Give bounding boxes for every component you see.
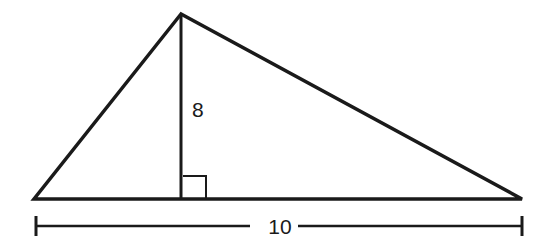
altitude-label: 8 <box>192 98 204 121</box>
triangle-diagram: 8 10 <box>0 0 549 250</box>
base-dimension: 10 <box>36 215 522 238</box>
base-label: 10 <box>268 215 291 238</box>
triangle <box>34 14 522 199</box>
right-angle-marker <box>183 176 206 199</box>
